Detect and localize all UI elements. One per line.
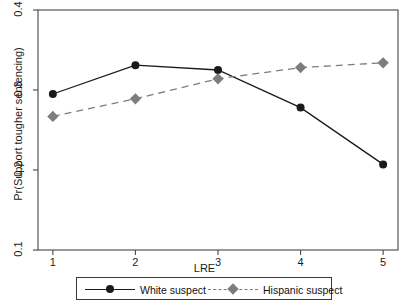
x-tick-label: 3 <box>208 256 228 268</box>
data-point-diamond-icon <box>47 111 58 122</box>
data-point-circle-icon <box>214 66 222 74</box>
legend-marker-solid-circle-icon <box>85 284 135 296</box>
x-axis-ticks <box>53 250 383 255</box>
legend-label-hispanic-suspect: Hispanic suspect <box>263 284 342 296</box>
data-point-circle-icon <box>49 90 57 98</box>
legend-marker-dashed-diamond-icon <box>208 284 258 296</box>
data-point-diamond-icon <box>212 73 223 84</box>
data-point-diamond-icon <box>130 93 141 104</box>
legend-entry-white-suspect: White suspect <box>85 278 206 301</box>
data-point-circle-icon <box>131 61 139 69</box>
y-axis-title: Pr(Support tougher sentencing) <box>12 24 24 224</box>
x-tick-label: 2 <box>125 256 145 268</box>
plot-frame <box>38 10 398 250</box>
data-point-diamond-icon <box>295 62 306 73</box>
x-tick-label: 1 <box>43 256 63 268</box>
data-point-circle-icon <box>379 160 387 168</box>
data-point-diamond-icon <box>377 57 388 68</box>
x-tick-label: 5 <box>373 256 393 268</box>
legend-label-white-suspect: White suspect <box>140 284 206 296</box>
data-point-circle-icon <box>297 104 305 112</box>
y-axis-ticks <box>33 10 38 250</box>
legend-entry-hispanic-suspect: Hispanic suspect <box>208 278 342 301</box>
y-tick-label: 0.4 <box>12 0 24 22</box>
y-tick-label: 0.2 <box>12 156 24 182</box>
data-series-group <box>47 57 389 168</box>
y-tick-label: 0.1 <box>12 236 24 262</box>
y-tick-label: 0.3 <box>12 76 24 102</box>
chart-legend: White suspect Hispanic suspect <box>76 277 332 300</box>
figure-canvas: Pr(Support tougher sentencing) LRE 0.10.… <box>0 0 409 305</box>
x-tick-label: 4 <box>291 256 311 268</box>
